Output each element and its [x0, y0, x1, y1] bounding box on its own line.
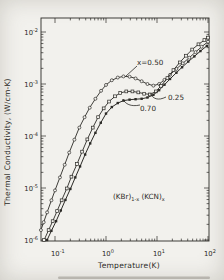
marker-open-square: [108, 100, 111, 103]
marker-open-circle: [110, 79, 113, 82]
y-tick-label: 10-5: [24, 183, 38, 193]
marker-open-circle: [42, 221, 45, 224]
marker-filled-square: [140, 98, 142, 100]
marker-open-square: [143, 92, 146, 95]
marker-open-circle: [46, 211, 49, 214]
marker-open-square: [91, 126, 94, 129]
marker-open-square: [178, 61, 181, 64]
y-tick-label: 10-4: [24, 131, 38, 141]
x-axis-title: Temperature(K): [97, 261, 160, 270]
marker-open-circle: [105, 83, 108, 86]
marker-open-circle: [68, 151, 71, 154]
marker-open-square: [65, 187, 68, 190]
marker-filled-square: [55, 220, 57, 222]
marker-open-circle: [73, 138, 76, 141]
marker-open-square: [125, 90, 128, 93]
marker-filled-square: [94, 132, 96, 134]
x-tick-label: 10-1: [51, 248, 65, 258]
marker-filled-square: [146, 96, 148, 98]
marker-filled-square: [60, 209, 62, 211]
marker-filled-square: [187, 60, 189, 62]
marker-open-square: [191, 48, 194, 51]
marker-filled-square: [158, 89, 160, 91]
marker-open-circle: [78, 126, 81, 129]
marker-open-square: [70, 175, 73, 178]
curve-x-0.50: [41, 42, 208, 230]
marker-open-circle: [134, 77, 137, 80]
marker-filled-square: [69, 188, 71, 190]
marker-open-circle: [88, 106, 91, 109]
marker-filled-square: [50, 230, 52, 232]
formula-annotation: (KBr)1-x (KCN)x: [113, 192, 165, 202]
marker-open-circle: [39, 229, 42, 232]
x-tick-label: 100: [102, 248, 114, 258]
marker-filled-square: [199, 50, 201, 52]
marker-filled-square: [100, 122, 102, 124]
scan-smudge-artifact: [58, 277, 210, 280]
marker-open-circle: [181, 62, 184, 65]
marker-open-square: [47, 229, 50, 232]
marker-open-square: [131, 90, 134, 93]
curve-label-x070: 0.70: [140, 104, 156, 113]
marker-filled-square: [105, 112, 107, 114]
marker-open-square: [81, 150, 84, 153]
marker-open-square: [56, 210, 59, 213]
marker-open-circle: [50, 199, 53, 202]
marker-filled-square: [89, 142, 91, 144]
marker-open-square: [137, 91, 140, 94]
marker-open-square: [185, 54, 188, 57]
marker-open-circle: [100, 89, 103, 92]
marker-filled-square: [64, 199, 66, 201]
marker-filled-square: [46, 239, 48, 241]
plot-area: 10-110010110210-210-310-410-510-6: [24, 18, 216, 258]
marker-filled-square: [79, 165, 81, 167]
marker-open-square: [60, 199, 63, 202]
marker-filled-square: [117, 102, 119, 104]
marker-open-circle: [188, 56, 191, 59]
y-tick-label: 10-3: [24, 79, 38, 89]
marker-open-circle: [122, 75, 125, 78]
marker-open-square: [86, 138, 89, 141]
marker-open-circle: [83, 116, 86, 119]
marker-open-circle: [207, 40, 210, 43]
marker-filled-square: [169, 78, 171, 80]
marker-open-square: [114, 95, 117, 98]
marker-open-circle: [200, 45, 203, 48]
marker-filled-square: [74, 176, 76, 178]
marker-open-square: [172, 69, 175, 72]
plot-frame: [41, 18, 209, 241]
figure-canvas: 10-110010110210-210-310-410-510-6 x=0.50…: [0, 0, 224, 280]
marker-open-square: [43, 239, 46, 242]
x-tick-label: 101: [153, 248, 165, 258]
marker-filled-square: [134, 98, 136, 100]
marker-filled-square: [181, 66, 183, 68]
curve-x-0.25: [44, 38, 208, 240]
marker-open-circle: [58, 176, 61, 179]
marker-open-circle: [116, 76, 119, 79]
y-axis-title: Thermal Conductivity, (W/cm-K): [3, 78, 12, 207]
marker-open-square: [203, 39, 206, 42]
marker-filled-square: [206, 45, 208, 47]
x-tick-label: 102: [204, 248, 216, 258]
leader-line-x050: [126, 66, 137, 76]
marker-open-square: [119, 92, 122, 95]
curve-label-x050: x=0.50: [137, 58, 164, 67]
scanned-chart-figure: 10-110010110210-210-310-410-510-6 x=0.50…: [0, 0, 224, 280]
marker-open-circle: [54, 189, 57, 192]
marker-open-square: [207, 36, 210, 39]
marker-open-square: [166, 77, 169, 80]
marker-filled-square: [175, 71, 177, 73]
marker-filled-square: [193, 55, 195, 57]
marker-open-square: [51, 220, 54, 223]
marker-filled-square: [128, 98, 130, 100]
marker-filled-square: [84, 153, 86, 155]
marker-open-circle: [128, 75, 131, 78]
curve-label-x025: 0.25: [168, 93, 184, 102]
marker-open-circle: [63, 163, 66, 166]
marker-open-circle: [146, 83, 149, 86]
marker-filled-square: [111, 106, 113, 108]
y-tick-label: 10-2: [24, 27, 38, 37]
marker-open-square: [197, 43, 200, 46]
marker-open-circle: [152, 84, 155, 87]
marker-open-square: [102, 107, 105, 110]
